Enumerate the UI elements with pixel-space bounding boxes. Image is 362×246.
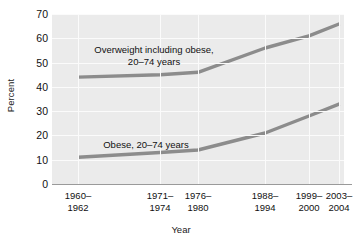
y-axis-title-label: Percent xyxy=(6,78,17,111)
gridline-vertical xyxy=(198,14,199,184)
x-axis-line xyxy=(52,184,352,185)
x-tick-label-line1: 1971– xyxy=(147,190,173,201)
x-tick-label: 1988– 1994 xyxy=(252,190,278,213)
obese-annotation-line1: Obese, 20–74 years xyxy=(103,139,189,150)
plot-area xyxy=(52,14,344,184)
x-tick-label-line2: 1994 xyxy=(254,202,275,213)
obese-annotation: Obese, 20–74 years xyxy=(103,139,189,151)
y-tick-label: 20 xyxy=(22,130,48,141)
gridline-vertical xyxy=(339,14,340,184)
y-tick-label: 50 xyxy=(22,58,48,69)
x-tick-label: 1999– 2000 xyxy=(296,190,322,213)
x-tick-label-line1: 1999– xyxy=(296,190,322,201)
gridline-vertical xyxy=(265,14,266,184)
y-tick-label: 60 xyxy=(22,33,48,44)
y-tick-label: 10 xyxy=(22,155,48,166)
x-tick-label-line1: 1988– xyxy=(252,190,278,201)
gridline-vertical xyxy=(160,14,161,184)
gridline-vertical xyxy=(78,14,79,184)
x-tick-label-line2: 1980 xyxy=(187,202,208,213)
x-tick-label: 1976– 1980 xyxy=(185,190,211,213)
y-tick-label: 0 xyxy=(22,179,48,190)
overweight-annotation: Overweight including obese, 20–74 years xyxy=(94,44,213,67)
x-tick-label-line1: 1960– xyxy=(65,190,91,201)
chart-figure: Percent 70 60 50 40 30 20 10 0 xyxy=(0,0,362,246)
x-tick-label-line2: 2004 xyxy=(328,202,349,213)
x-tick-label-line1: 1976– xyxy=(185,190,211,201)
overweight-annotation-line2: 20–74 years xyxy=(128,56,180,67)
x-tick-label: 2003– 2004 xyxy=(326,190,352,213)
x-tick-label: 1971– 1974 xyxy=(147,190,173,213)
y-tick-label: 30 xyxy=(22,106,48,117)
x-tick-label-line2: 1974 xyxy=(149,202,170,213)
y-tick-label: 40 xyxy=(22,82,48,93)
x-tick-label-line2: 2000 xyxy=(298,202,319,213)
gridline-vertical xyxy=(309,14,310,184)
x-axis-title: Year xyxy=(0,224,362,235)
x-tick-label-line1: 2003– xyxy=(326,190,352,201)
x-tick-label-line2: 1962 xyxy=(67,202,88,213)
y-tick-label: 70 xyxy=(22,9,48,20)
overweight-annotation-line1: Overweight including obese, xyxy=(94,44,213,55)
y-axis-tick-labels: 70 60 50 40 30 20 10 0 xyxy=(18,0,48,190)
x-tick-label: 1960– 1962 xyxy=(65,190,91,213)
